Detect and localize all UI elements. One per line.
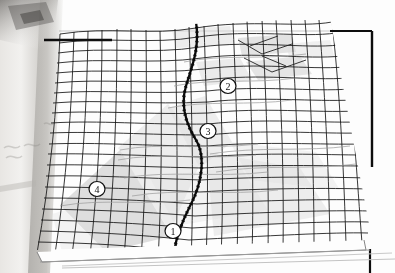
label-1-text: 1 bbox=[171, 226, 176, 237]
label-3[interactable]: 3 bbox=[200, 124, 216, 139]
label-4-text: 4 bbox=[95, 184, 100, 195]
label-4[interactable]: 4 bbox=[89, 182, 105, 197]
figure-canvas: 1 2 3 4 bbox=[0, 0, 395, 273]
page-bottom-rule bbox=[62, 259, 395, 268]
label-3-text: 3 bbox=[206, 126, 211, 137]
label-2[interactable]: 2 bbox=[220, 79, 236, 94]
label-1[interactable]: 1 bbox=[165, 224, 181, 239]
surface-plot: 1 2 3 4 bbox=[0, 0, 395, 273]
label-2-text: 2 bbox=[226, 81, 231, 92]
